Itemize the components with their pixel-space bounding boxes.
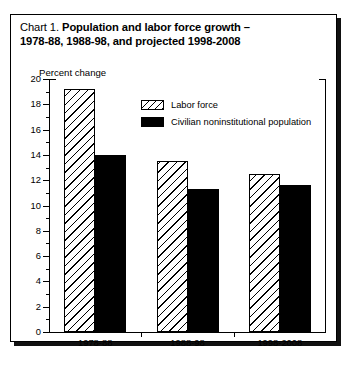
y-minor-tick-17 — [46, 117, 49, 118]
chart-title-number: Chart 1. — [20, 21, 59, 33]
x-axis-group-separator — [141, 332, 142, 337]
x-axis-label-1978-88: 1978-88 — [78, 337, 112, 348]
bar-1978-88-labor-force — [64, 89, 95, 332]
bar-1988-98-labor-force — [157, 161, 188, 332]
y-tick-label-0: 0 — [36, 327, 41, 336]
y-tick-20 — [43, 79, 49, 80]
y-tick-10 — [43, 206, 49, 207]
y-axis-label: Percent change — [39, 67, 106, 78]
y-minor-tick-11 — [46, 193, 49, 194]
y-tick-4 — [43, 281, 49, 282]
y-tick-2 — [43, 307, 49, 308]
chart-title-line2: 1978-88, 1988-98, and projected 1998-200… — [20, 35, 240, 47]
plot-top-right-tick — [319, 79, 326, 80]
y-tick-label-16: 16 — [31, 125, 41, 134]
chart-title: Chart 1. Population and labor force grow… — [20, 21, 325, 48]
y-tick-label-14: 14 — [31, 150, 41, 159]
y-minor-tick-9 — [46, 218, 49, 219]
x-axis-label-1988-98: 1988-98 — [170, 337, 204, 348]
bar-1998-2008-population — [280, 185, 311, 332]
y-tick-label-10: 10 — [31, 201, 41, 210]
y-tick-6 — [43, 256, 49, 257]
y-minor-tick-7 — [46, 243, 49, 244]
y-tick-label-18: 18 — [31, 100, 41, 109]
plot-right-border — [325, 79, 326, 333]
y-minor-tick-5 — [46, 269, 49, 270]
plot-area: 02468101214161820 1978-881988-981998-200… — [49, 79, 326, 333]
x-axis-group-separator — [234, 332, 235, 337]
y-minor-tick-13 — [46, 168, 49, 169]
plot-top-left-tick — [49, 79, 56, 80]
chart-figure: Chart 1. Population and labor force grow… — [10, 14, 337, 342]
y-minor-tick-19 — [46, 92, 49, 93]
y-minor-tick-15 — [46, 142, 49, 143]
y-tick-label-20: 20 — [31, 74, 41, 83]
y-tick-16 — [43, 130, 49, 131]
y-tick-18 — [43, 104, 49, 105]
y-tick-label-6: 6 — [36, 251, 41, 260]
y-tick-label-4: 4 — [36, 277, 41, 286]
y-tick-14 — [43, 155, 49, 156]
bar-1998-2008-labor-force — [249, 174, 280, 332]
bar-1978-88-population — [95, 155, 126, 332]
y-tick-label-12: 12 — [31, 175, 41, 184]
y-tick-label-8: 8 — [36, 226, 41, 235]
x-axis-line — [49, 332, 326, 333]
y-minor-tick-1 — [46, 319, 49, 320]
y-tick-label-2: 2 — [36, 302, 41, 311]
y-minor-tick-3 — [46, 294, 49, 295]
y-axis-line — [49, 79, 50, 333]
x-axis-label-1998-2008: 1998-2008 — [257, 337, 302, 348]
y-tick-12 — [43, 180, 49, 181]
y-tick-0 — [43, 332, 49, 333]
chart-title-line1: Population and labor force growth – — [62, 21, 250, 33]
bar-1988-98-population — [188, 189, 219, 332]
y-tick-8 — [43, 231, 49, 232]
